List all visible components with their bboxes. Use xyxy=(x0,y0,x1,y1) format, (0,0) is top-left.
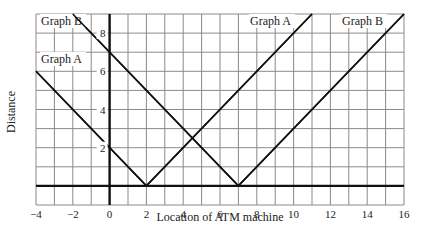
x-tick-label: −4 xyxy=(30,208,42,220)
series-label: Graph A xyxy=(41,52,82,66)
x-tick-label: 14 xyxy=(362,208,374,220)
x-tick-label: 0 xyxy=(107,208,113,220)
y-tick-label: 6 xyxy=(100,65,106,77)
x-tick-label: −2 xyxy=(67,208,79,220)
x-tick-label: 12 xyxy=(325,208,336,220)
series-label: Graph B xyxy=(342,14,383,28)
x-axis-label: Location of ATM machine xyxy=(157,210,284,224)
y-tick-label: 4 xyxy=(100,104,106,116)
series-label: Graph A xyxy=(250,14,291,28)
x-tick-label: 10 xyxy=(288,208,300,220)
series-line-overlay xyxy=(36,14,312,186)
series-line-graph-a xyxy=(36,14,312,186)
y-axis-label: Distance xyxy=(4,91,18,133)
y-tick-label: 2 xyxy=(100,142,106,154)
chart: Graph BGraph AGraph AGraph B −4−20246810… xyxy=(0,0,431,238)
y-tick-label: 8 xyxy=(100,27,106,39)
x-tick-label: 2 xyxy=(144,208,150,220)
x-tick-label: 16 xyxy=(399,208,411,220)
